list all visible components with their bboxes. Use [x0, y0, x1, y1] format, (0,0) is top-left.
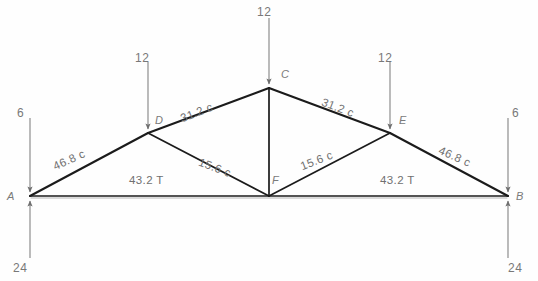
- load-value-E: 12: [378, 51, 392, 65]
- node-label-D: D: [155, 114, 163, 126]
- node-label-F: F: [272, 174, 279, 186]
- force-label-A-F: 43.2 T: [129, 174, 164, 186]
- load-value-A: 6: [17, 106, 24, 120]
- reaction-value-A: 24: [13, 261, 27, 275]
- load-value-C: 12: [257, 5, 271, 19]
- load-value-D: 12: [135, 51, 149, 65]
- load-value-B: 6: [512, 106, 519, 120]
- member-A-D: [30, 133, 148, 196]
- node-label-A: A: [7, 190, 15, 202]
- truss-diagram: A B C D E F 6 12 12 12 6 24 24 46.8 c 31…: [0, 0, 538, 281]
- node-label-E: E: [399, 114, 407, 126]
- truss-drawing-canvas: [0, 0, 538, 281]
- reaction-value-B: 24: [508, 261, 522, 275]
- member-E-B: [390, 133, 508, 196]
- force-label-F-B: 43.2 T: [380, 174, 415, 186]
- node-label-C: C: [281, 68, 289, 80]
- node-label-B: B: [516, 190, 524, 202]
- member-F-E: [269, 133, 390, 196]
